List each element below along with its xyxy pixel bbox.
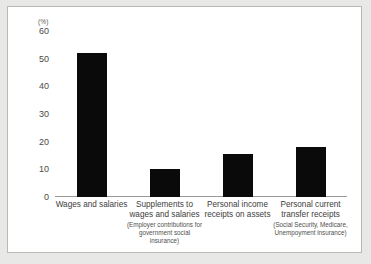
bar: [150, 169, 180, 197]
y-axis-tick-20: 20: [8, 137, 49, 147]
plot-area: [55, 31, 347, 197]
y-axis-tick-10: 10: [8, 164, 49, 174]
x-axis-label: Wages and salaries: [53, 200, 131, 210]
bar: [77, 53, 107, 197]
y-axis-tick-50: 50: [8, 54, 49, 64]
chart-figure: (%) 6050403020100 Wages and salariesSupp…: [7, 6, 362, 253]
y-axis-tick-60: 60: [8, 26, 49, 36]
y-axis-tick-0: 0: [8, 192, 49, 202]
x-axis-label: Supplements to wages and salaries(Employ…: [126, 200, 204, 245]
bar: [296, 147, 326, 197]
x-axis-label-sub: (Social Security, Medicare, Unempoyment …: [272, 221, 350, 237]
x-axis-label: Personal current transfer receipts(Socia…: [272, 200, 350, 237]
x-axis-label-sub: (Employer contributions for government s…: [126, 221, 204, 245]
x-axis-label-main: Supplements to wages and salaries: [126, 200, 204, 220]
x-axis-labels: Wages and salariesSupplements to wages a…: [55, 200, 347, 254]
y-axis-unit-label: (%): [38, 18, 48, 25]
x-axis-label-main: Wages and salaries: [53, 200, 131, 210]
bar: [223, 154, 253, 197]
y-axis-tick-40: 40: [8, 81, 49, 91]
y-axis-tick-30: 30: [8, 109, 49, 119]
x-axis-label: Personal income receipts on assets: [199, 200, 277, 220]
x-axis-label-main: Personal current transfer receipts: [272, 200, 350, 220]
x-axis-label-main: Personal income receipts on assets: [199, 200, 277, 220]
